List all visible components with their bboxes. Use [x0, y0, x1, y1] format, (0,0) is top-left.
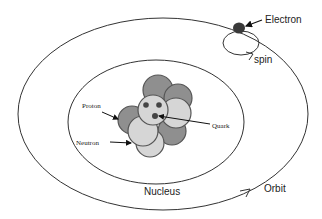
electron-arrow	[246, 20, 262, 26]
electron-particle	[233, 23, 245, 34]
electron-label: Electron	[265, 14, 302, 25]
atom-diagram: Electron spin Proton Neutron Quark Nucle…	[0, 0, 322, 219]
quark-dot	[156, 102, 162, 108]
spin-arrow-icon	[246, 52, 253, 60]
neutron-label: Neutron	[76, 139, 99, 147]
proton-arrow	[102, 112, 118, 119]
neutron-arrow	[110, 142, 131, 143]
nucleus-label: Nucleus	[144, 186, 180, 197]
neutron-particle	[138, 95, 168, 125]
proton-label: Proton	[82, 102, 101, 110]
spin-loop	[223, 31, 259, 55]
spin-label: spin	[254, 54, 272, 65]
quark-dot	[143, 102, 149, 108]
quark-label: Quark	[212, 122, 230, 130]
quark-dot	[152, 113, 158, 119]
orbit-label: Orbit	[264, 183, 286, 194]
